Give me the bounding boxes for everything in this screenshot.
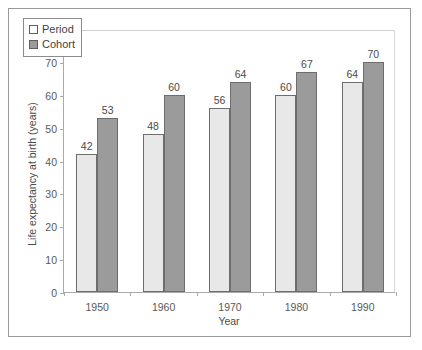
bar-value-label: 64	[235, 68, 247, 80]
x-tick-label: 1970	[218, 301, 241, 313]
bar-value-label: 42	[81, 140, 93, 152]
bar-cohort-1960[interactable]	[164, 95, 185, 292]
bar-cohort-1950[interactable]	[97, 118, 118, 292]
bar-value-label: 53	[102, 104, 114, 116]
bar-value-label: 64	[346, 68, 358, 80]
x-tick-label: 1960	[152, 301, 175, 313]
bar-period-1980[interactable]	[275, 95, 296, 292]
bar-period-1950[interactable]	[76, 154, 97, 292]
y-tick-mark	[60, 194, 64, 195]
y-tick-label: 0	[18, 287, 64, 299]
legend-label-period: Period	[42, 24, 74, 35]
bar-value-label: 70	[367, 48, 379, 60]
bar-cohort-1990[interactable]	[363, 62, 384, 292]
plot-area: 01020304050607080 19501960197019801990 4…	[63, 30, 395, 293]
bar-cohort-1980[interactable]	[296, 72, 317, 292]
bar-value-label: 56	[214, 94, 226, 106]
y-tick-label: 10	[18, 254, 64, 266]
x-tick-label: 1990	[351, 301, 374, 313]
y-tick-mark	[60, 162, 64, 163]
y-tick-label: 30	[18, 188, 64, 200]
x-tick-mark	[64, 292, 65, 296]
legend-item-cohort[interactable]: Cohort	[29, 37, 75, 52]
x-tick-mark	[330, 292, 331, 296]
bar-value-label: 60	[280, 81, 292, 93]
legend-swatch-cohort-icon	[29, 40, 38, 49]
bar-cohort-1970[interactable]	[230, 82, 251, 292]
legend-swatch-period-icon	[29, 25, 38, 34]
y-tick-mark	[60, 129, 64, 130]
x-tick-label: 1950	[86, 301, 109, 313]
y-tick-label: 70	[18, 57, 64, 69]
y-tick-mark	[60, 96, 64, 97]
y-tick-label: 60	[18, 90, 64, 102]
plot-top-rule	[64, 30, 395, 31]
bar-period-1990[interactable]	[342, 82, 363, 292]
y-tick-label: 50	[18, 123, 64, 135]
x-tick-mark	[263, 292, 264, 296]
y-tick-mark	[60, 260, 64, 261]
legend-item-period[interactable]: Period	[29, 22, 75, 37]
chart-legend: Period Cohort	[23, 18, 82, 57]
y-tick-label: 40	[18, 156, 64, 168]
y-tick-label: 20	[18, 221, 64, 233]
y-tick-mark	[60, 227, 64, 228]
bar-value-label: 60	[168, 81, 180, 93]
bar-period-1970[interactable]	[209, 108, 230, 292]
bar-period-1960[interactable]	[143, 134, 164, 292]
x-tick-mark	[396, 292, 397, 296]
chart-figure: Life expectancy at birth (years) 0102030…	[8, 8, 411, 337]
legend-label-cohort: Cohort	[42, 39, 75, 50]
bar-value-label: 67	[301, 58, 313, 70]
y-tick-mark	[60, 63, 64, 64]
x-tick-label: 1980	[285, 301, 308, 313]
x-tick-mark	[197, 292, 198, 296]
x-tick-mark	[130, 292, 131, 296]
bar-value-label: 48	[147, 120, 159, 132]
plot-right-rule	[394, 30, 395, 292]
x-axis-title: Year	[63, 315, 395, 327]
